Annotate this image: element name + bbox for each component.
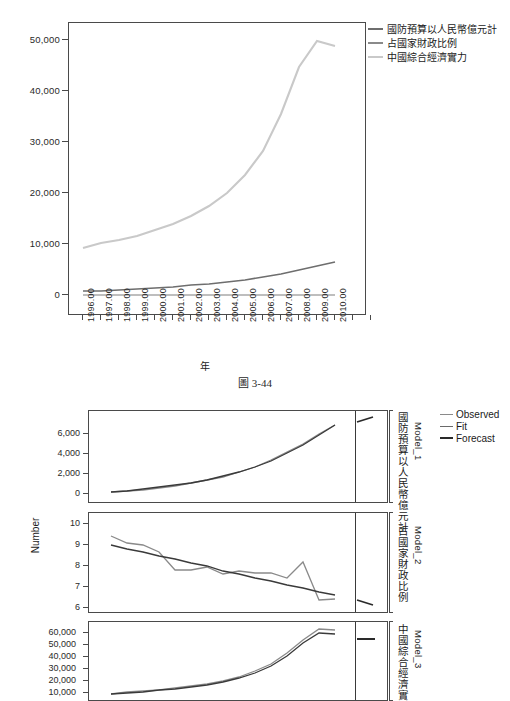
panel3-y-tick-label: 20,000 [16, 675, 76, 685]
x-tick-mark [298, 315, 299, 320]
panel2-y-tick-label: 6 [20, 602, 80, 612]
panel-model-1 [88, 410, 388, 503]
top-chart-legend: 國防預算以人民幣億元計 占國家財政比例 中國綜合經濟實力 [368, 22, 510, 64]
x-tick-label: 2004.00 [230, 288, 240, 322]
y-tick-label: 10,000 [8, 238, 60, 249]
x-tick-mark [352, 315, 353, 320]
x-tick-mark [370, 315, 371, 320]
x-tick-mark [316, 315, 317, 320]
panel-model-3 [88, 621, 388, 701]
y-tick-label: 40,000 [8, 85, 60, 96]
legend-swatch-icon [368, 28, 383, 30]
panel3-y-tick-label: 30,000 [16, 663, 76, 673]
panel2-fit-line [111, 545, 335, 595]
panel1-y-tick-label: 6,000 [20, 428, 80, 438]
panel1-y-tick-label: 4,000 [20, 448, 80, 458]
panel2-forecast-divider [355, 513, 356, 612]
x-tick-label: 2001.00 [176, 288, 186, 322]
legend-label: Observed [456, 409, 499, 420]
panel2-model-label: Model_2 [410, 526, 424, 565]
legend-label: 中國綜合經濟實力 [387, 49, 467, 64]
panel1-fit-line [111, 425, 335, 492]
top-chart-series-svg [69, 23, 365, 314]
x-tick-mark [190, 315, 191, 320]
legend-item-forecast: Forecast [440, 432, 510, 444]
top-chart-plot-area [68, 22, 366, 315]
x-axis-title: 年 [200, 358, 210, 373]
legend-item-fit: Fit [440, 420, 510, 432]
x-tick-label: 2008.00 [302, 288, 312, 322]
x-tick-mark [262, 315, 263, 320]
x-tick-label: 1998.00 [122, 288, 132, 322]
panel2-side-label: 占國家財政比例 [392, 520, 408, 608]
panel3-series-svg [89, 622, 387, 700]
x-tick-label: 1997.00 [104, 288, 114, 322]
panel-model-2 [88, 512, 388, 613]
x-tick-mark [154, 315, 155, 320]
x-tick-label: 2006.00 [266, 288, 276, 322]
x-tick-label: 2003.00 [212, 288, 222, 322]
panel1-y-tick-label: 0 [20, 488, 80, 498]
y-tick-label: 20,000 [8, 187, 60, 198]
x-tick-mark [136, 315, 137, 320]
x-tick-mark [334, 315, 335, 320]
x-tick-mark [100, 315, 101, 320]
panel1-y-tick-label: 2,000 [20, 468, 80, 478]
panel1-model-label: Model_1 [410, 422, 424, 461]
panel3-side-label: 中國綜合經濟實力 [392, 624, 408, 700]
panel2-y-tick-label: 7 [20, 581, 80, 591]
legend-swatch-icon [440, 426, 453, 427]
legend-label: 占國家財政比例 [387, 35, 457, 50]
x-tick-label: 1996.00 [86, 288, 96, 322]
x-tick-mark [82, 315, 83, 320]
x-tick-label: 1999.00 [140, 288, 150, 322]
panel1-forecast-line [357, 417, 373, 422]
panel3-fit-line [111, 633, 335, 694]
panel3-observed-line [111, 629, 335, 694]
y-tick-label: 50,000 [8, 34, 60, 45]
panel3-y-tick-label: 50,000 [16, 639, 76, 649]
x-tick-label: 2010.00 [338, 288, 348, 322]
x-tick-mark [208, 315, 209, 320]
x-tick-mark [226, 315, 227, 320]
x-tick-mark [244, 315, 245, 320]
x-tick-label: 2000.00 [158, 288, 168, 322]
panel2-y-tick-label: 9 [20, 539, 80, 549]
panel1-forecast-divider [355, 411, 356, 502]
legend-item-observed: Observed [440, 408, 510, 420]
panel3-y-tick-label: 60,000 [16, 627, 76, 637]
x-tick-mark [172, 315, 173, 320]
figure-caption: 圖 3-44 [0, 374, 510, 390]
panel3-forecast-divider [355, 622, 356, 700]
panel2-series-svg [89, 513, 387, 612]
panel3-y-tick-label: 10,000 [16, 687, 76, 697]
panel2-forecast-line [357, 600, 373, 605]
series-line-economic-power [83, 41, 335, 248]
legend-label: 國防預算以人民幣億元計 [387, 21, 497, 36]
y-tick-label: 0 [8, 289, 60, 300]
panel2-observed-line [111, 536, 335, 600]
x-tick-label: 2002.00 [194, 288, 204, 322]
x-tick-label: 2009.00 [320, 288, 330, 322]
legend-item-economic-power: 中國綜合經濟實力 [368, 50, 510, 63]
panel3-model-label: Model_3 [410, 630, 424, 669]
forecast-model-panel-chart: Number 6,000 4,000 2,000 0 國防預算以人民幣億元計 M… [0, 402, 510, 701]
panel2-y-tick-label: 10 [20, 518, 80, 528]
panel1-side-label: 國防預算以人民幣億元計 [392, 412, 408, 502]
legend-swatch-icon [368, 42, 383, 44]
legend-label: Forecast [456, 433, 495, 444]
panel3-y-tick-label: 40,000 [16, 651, 76, 661]
panel2-y-tick-label: 8 [20, 560, 80, 570]
legend-swatch-icon [368, 56, 383, 58]
x-tick-mark [118, 315, 119, 320]
x-tick-label: 2005.00 [248, 288, 258, 322]
panel1-observed-line [111, 425, 335, 492]
series-line-defense-budget [83, 262, 335, 291]
legend-label: Fit [456, 421, 467, 432]
legend-swatch-icon [440, 414, 453, 415]
bottom-chart-legend: Observed Fit Forecast [440, 408, 510, 444]
defense-budget-line-chart: 50,000 40,000 30,000 20,000 10,000 0 [0, 0, 510, 400]
legend-item-defense-budget: 國防預算以人民幣億元計 [368, 22, 510, 35]
legend-swatch-icon [440, 437, 453, 439]
legend-item-fiscal-ratio: 占國家財政比例 [368, 36, 510, 49]
